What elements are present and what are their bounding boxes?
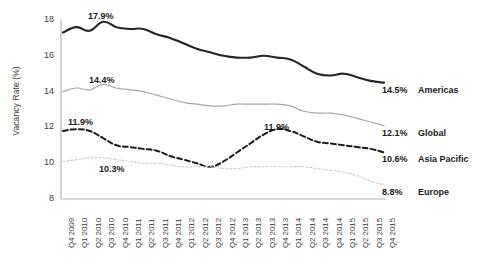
annotation-asiapacific-peak-late: 11.9%: [264, 122, 289, 132]
y-axis-title: Vacancy Rate (%): [11, 41, 21, 161]
x-tick-q1-2012: Q1 2012: [187, 218, 196, 248]
series-end-value-europe: 8.8%: [382, 187, 403, 197]
series-name-asia-pacific: Asia Pacific: [418, 154, 469, 164]
x-tick-q4-2012: Q4 2012: [228, 218, 237, 248]
x-tick-q3-2013: Q3 2013: [268, 218, 277, 248]
series-end-value-americas: 14.5%: [382, 85, 408, 95]
x-tick-q4-2014: Q4 2014: [335, 218, 344, 248]
x-tick-q1-2014: Q1 2014: [294, 218, 303, 248]
series-line-americas: [63, 22, 384, 83]
x-tick-q4-2010: Q4 2010: [121, 218, 130, 248]
series-end-value-asia-pacific: 10.6%: [382, 154, 408, 164]
y-tick-16: 16: [28, 50, 54, 60]
x-tick-q1-2015: Q1 2015: [348, 218, 357, 248]
series-line-asia-pacific: [63, 129, 384, 167]
x-tick-q3-2011: Q3 2011: [161, 219, 170, 248]
vacancy-rate-line-chart: Vacancy Rate (%) 18161412108 Q4 2009Q1 2…: [0, 0, 489, 260]
x-tick-q4-2013: Q4 2013: [281, 218, 290, 248]
annotation-americas-peak: 17.9%: [88, 11, 114, 21]
x-tick-q3-2010: Q3 2010: [107, 218, 116, 248]
x-tick-q2-2010: Q2 2010: [94, 218, 103, 248]
y-tick-10: 10: [28, 157, 54, 167]
series-name-europe: Europe: [418, 187, 449, 197]
x-tick-q3-2012: Q3 2012: [214, 218, 223, 248]
x-tick-q1-2010: Q1 2010: [80, 218, 89, 248]
x-tick-q2-2014: Q2 2014: [308, 218, 317, 248]
chart-series-group: [63, 22, 384, 185]
annotation-asiapacific-peak-early: 11.9%: [68, 117, 93, 127]
x-tick-q1-2013: Q1 2013: [241, 218, 250, 248]
annotation-europe-peak: 10.3%: [99, 164, 125, 174]
y-tick-18: 18: [28, 14, 54, 24]
x-tick-q4-2009: Q4 2009: [67, 218, 76, 248]
x-tick-q3-2015: Q3 2015: [375, 218, 384, 248]
y-tick-14: 14: [28, 86, 54, 96]
series-name-americas: Americas: [418, 85, 459, 95]
x-tick-q4-2011: Q4 2011: [174, 219, 183, 248]
x-tick-q3-2014: Q3 2014: [321, 218, 330, 248]
series-name-global: Global: [418, 128, 446, 138]
x-tick-q2-2015: Q2 2015: [361, 218, 370, 248]
x-tick-q2-2013: Q2 2013: [254, 218, 263, 248]
series-end-value-global: 12.1%: [382, 128, 408, 138]
x-tick-q1-2011: Q1 2011: [134, 219, 143, 248]
y-tick-8: 8: [28, 193, 54, 203]
x-tick-q2-2011: Q2 2011: [147, 219, 156, 248]
series-line-global: [63, 84, 384, 125]
y-tick-12: 12: [28, 121, 54, 131]
annotation-global-peak: 14.4%: [89, 75, 115, 85]
x-tick-q4-2015: Q4 2015: [388, 218, 397, 248]
x-tick-q2-2012: Q2 2012: [201, 218, 210, 248]
